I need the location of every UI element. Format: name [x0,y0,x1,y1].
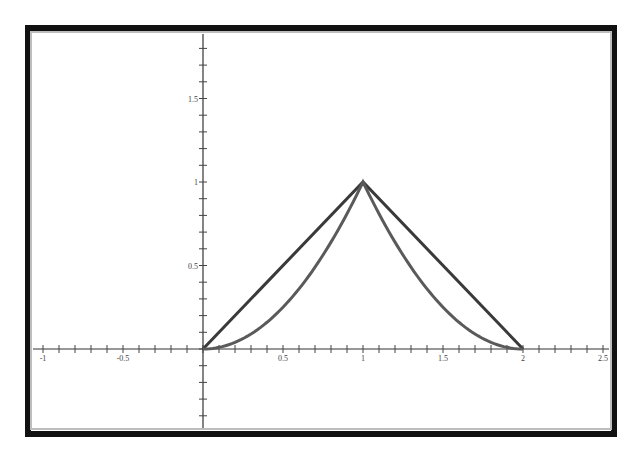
series-curved-line [203,182,523,349]
x-tick-label: 1 [361,354,365,363]
series-tent-line [203,182,523,349]
plot-area: -1-0.50.511.522.50.511.5 [0,0,641,457]
tick-labels: -1-0.50.511.522.50.511.5 [40,95,608,364]
y-tick-label: 1.5 [188,95,198,104]
y-tick-label: 1 [194,178,198,187]
x-tick-label: 0.5 [278,354,288,363]
data-series [203,182,523,349]
y-tick-label: 0.5 [188,262,198,271]
x-tick-label: 2.5 [598,354,608,363]
x-tick-label: -0.5 [117,354,130,363]
x-tick-label: 1.5 [438,354,448,363]
x-tick-label: -1 [40,354,47,363]
axes [33,34,609,428]
x-tick-label: 2 [521,354,525,363]
